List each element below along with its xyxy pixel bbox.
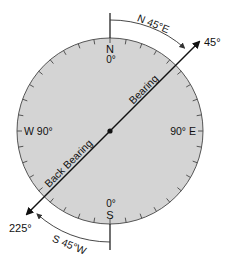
back-bearing-degrees: 225° <box>9 222 32 234</box>
north-quadrant-label: N 45°E <box>136 11 171 35</box>
north-degrees: 0° <box>106 54 116 65</box>
east-label: 90° E <box>170 125 196 137</box>
center-pivot <box>107 128 112 133</box>
west-label: W 90° <box>24 125 53 137</box>
south-quadrant-label: S 45°W <box>51 232 89 257</box>
south-degrees: 0° <box>106 198 116 209</box>
south-letter: S <box>106 209 113 221</box>
compass-diagram: N 0° 0° S W 90° 90° E 45° 225° Bearing B… <box>0 0 232 263</box>
bearing-degrees: 45° <box>204 36 221 48</box>
